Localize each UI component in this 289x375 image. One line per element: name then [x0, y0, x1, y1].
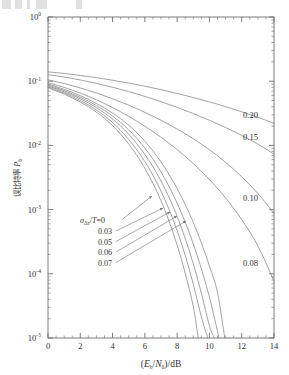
svg-text:(Eb/N0)/dB: (Eb/N0)/dB: [141, 359, 181, 370]
y-tick-label: 100: [30, 11, 42, 22]
annotation-leader-lines: [116, 196, 186, 263]
y-title-cjk: 误比特率: [12, 168, 22, 197]
figure-container: 10010-110-210-310-410-5 02468101214 0.08…: [0, 0, 289, 375]
leader-line-0: [122, 196, 152, 220]
data-curves: [48, 72, 274, 338]
x-tick-label: 10: [205, 341, 214, 351]
y-axis-ticks: [48, 17, 274, 338]
curve-0p15: [48, 75, 274, 155]
y-tick-mantissa: 10: [28, 205, 37, 215]
curve-label-0p05: 0.05: [98, 238, 112, 247]
x-tick-label: 8: [175, 341, 179, 351]
curve-label-0p07: 0.07: [98, 259, 112, 268]
y-tick-label: 10-2: [28, 140, 41, 151]
y-axis-tick-labels: 10010-110-210-310-410-5: [28, 11, 41, 343]
y-tick-exponent: -4: [36, 268, 41, 274]
x-tick-label: 12: [237, 341, 246, 351]
curve-label-0p08: 0.08: [243, 258, 258, 268]
curve-0p20: [48, 72, 274, 123]
curve-label-0p06: 0.06: [98, 248, 112, 257]
curve-value-labels: 0.080.100.150.20: [243, 110, 258, 268]
annot-equals-zero: =0: [97, 216, 106, 225]
svg-text:误比特率 Pb: 误比特率 Pb: [12, 159, 23, 198]
x-tick-label: 6: [143, 341, 147, 351]
x-tick-label: 14: [270, 341, 279, 351]
curve-label-0p20: 0.20: [243, 110, 258, 120]
y-axis-title: 误比特率 Pb: [12, 159, 23, 198]
y-tick-mantissa: 10: [28, 76, 37, 86]
y-tick-label: 10-4: [28, 268, 41, 279]
x-axis-title: (Eb/N0)/dB: [141, 359, 181, 370]
y-tick-mantissa: 10: [28, 269, 37, 279]
y-tick-exponent: -3: [36, 204, 41, 210]
curve-label-0p15: 0.15: [243, 132, 258, 142]
y-tick-exponent: -1: [36, 76, 41, 82]
curve-label-0p03: 0.03: [98, 227, 112, 236]
y-title-symbol-sub: b: [17, 159, 23, 162]
x-tick-label: 4: [110, 341, 115, 351]
plot-border: [48, 17, 274, 338]
y-tick-label: 10-1: [28, 76, 41, 87]
x-axis-ticks: [48, 17, 274, 338]
curve-0p07: [48, 84, 225, 338]
y-tick-mantissa: 10: [28, 140, 37, 150]
y-tick-exponent: -5: [36, 332, 41, 338]
leader-line-0p06: [116, 216, 177, 252]
x-title-unit: dB: [170, 359, 181, 369]
y-tick-label: 10-3: [28, 204, 41, 215]
x-tick-label: 0: [46, 341, 50, 351]
bit-error-rate-chart: 10010-110-210-310-410-5 02468101214 0.08…: [0, 0, 289, 375]
y-tick-label: 10-5: [28, 332, 41, 343]
y-tick-mantissa: 10: [28, 333, 37, 343]
parameter-annotation-block: σΔτ/T=00.030.050.060.07: [80, 216, 112, 268]
parameter-annotation-title: σΔτ/T=0: [80, 216, 105, 226]
curve-0p06: [48, 85, 219, 338]
leader-line-0p07: [116, 221, 186, 263]
x-tick-label: 2: [78, 341, 82, 351]
y-tick-exponent: -2: [36, 140, 41, 146]
y-tick-exponent: 0: [38, 11, 41, 17]
plot-frame: [48, 17, 274, 338]
y-tick-mantissa: 10: [30, 12, 39, 22]
curve-label-0p10: 0.10: [243, 193, 258, 203]
x-axis-tick-labels: 02468101214: [46, 341, 279, 351]
